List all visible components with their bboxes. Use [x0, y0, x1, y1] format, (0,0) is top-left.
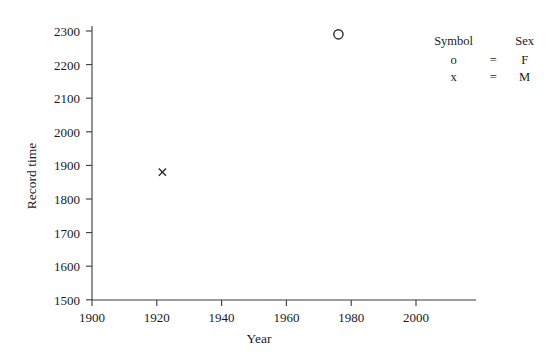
- y-axis-title: Record time: [24, 116, 40, 236]
- legend-sex-male: M: [503, 69, 546, 86]
- legend-equals-male: =: [483, 69, 503, 86]
- x-tick-label-1900: 1900: [79, 311, 105, 324]
- y-tick-label-1600: 1600: [40, 260, 80, 273]
- data-point-male-marker: [159, 169, 166, 176]
- legend-symbol-cross: x: [424, 69, 483, 86]
- y-tick-label-1900: 1900: [40, 159, 80, 172]
- legend-header-spacer: [483, 33, 503, 52]
- legend-row-male: x = M: [424, 69, 546, 86]
- y-tick-label-1800: 1800: [40, 193, 80, 206]
- y-tick-label-1500: 1500: [40, 293, 80, 306]
- legend-sex-female: F: [503, 52, 546, 69]
- axis-lines: [92, 26, 476, 300]
- y-tick-label-2100: 2100: [40, 92, 80, 105]
- legend: Symbol Sex o = F x = M: [424, 33, 546, 86]
- x-axis-title: Year: [247, 331, 272, 347]
- legend-symbol-circle: o: [424, 52, 483, 69]
- x-tick-label-1980: 1980: [338, 311, 364, 324]
- x-tick-label-1920: 1920: [144, 311, 170, 324]
- y-tick-label-2200: 2200: [40, 58, 80, 71]
- y-tick-label-2300: 2300: [40, 25, 80, 38]
- x-tick-label-1940: 1940: [209, 311, 235, 324]
- x-tick-label-2000: 2000: [403, 311, 429, 324]
- legend-equals-female: =: [483, 52, 503, 69]
- legend-header-row: Symbol Sex: [424, 33, 546, 52]
- y-tick-label-1700: 1700: [40, 226, 80, 239]
- scatter-chart-figure: 2300 2200 2100 2000 1900 1800 1700 1600 …: [0, 0, 546, 361]
- legend-table: Symbol Sex o = F x = M: [424, 33, 546, 86]
- legend-header-sex: Sex: [503, 33, 546, 52]
- x-axis-ticks: [92, 300, 416, 306]
- data-markers: [159, 30, 343, 176]
- x-tick-label-1960: 1960: [273, 311, 299, 324]
- y-axis-ticks: [86, 31, 92, 300]
- y-tick-label-2000: 2000: [40, 125, 80, 138]
- legend-row-female: o = F: [424, 52, 546, 69]
- legend-header-symbol: Symbol: [424, 33, 483, 52]
- data-point-female-marker: [334, 30, 343, 39]
